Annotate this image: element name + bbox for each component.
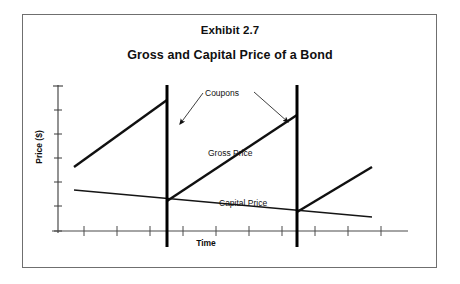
- coupons-arrow-right: [254, 92, 288, 122]
- y-axis-label: Price ($): [34, 107, 44, 187]
- figure-container: Exhibit 2.7 Gross and Capital Price of a…: [0, 0, 460, 284]
- annotation-gross-price: Gross Price: [208, 148, 252, 158]
- coupons-arrow-left: [180, 93, 203, 124]
- coupon-drop-lines: [167, 85, 297, 247]
- x-axis: [52, 226, 408, 236]
- x-axis-label: Time: [176, 238, 236, 248]
- annotation-coupons: Coupons: [205, 88, 239, 98]
- annotation-capital-price: Capital Price: [219, 198, 267, 208]
- y-axis: [53, 85, 63, 233]
